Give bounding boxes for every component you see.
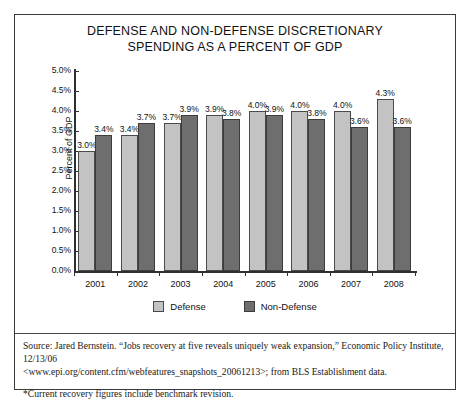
- legend-swatch-icon: [244, 301, 255, 312]
- bar-defense-2004: 3.9%: [206, 115, 223, 271]
- bar-defense-2002: 3.4%: [121, 135, 138, 271]
- bar-value-label: 3.0%: [77, 140, 96, 150]
- y-axis-tick-label: 1.5%: [52, 205, 71, 215]
- bar-defense-2006: 4.0%: [291, 111, 308, 271]
- x-axis-label-2004: 2004: [202, 279, 245, 289]
- bar-value-label: 3.9%: [179, 104, 198, 114]
- bar-value-label: 3.4%: [94, 124, 113, 134]
- bar-group: 4.0%3.8%: [291, 71, 325, 271]
- x-axis-label-2002: 2002: [117, 279, 160, 289]
- y-axis-tick-label: 2.5%: [52, 165, 71, 175]
- bar-non-defense-2004: 3.8%: [223, 119, 240, 271]
- bar-value-label: 4.3%: [376, 88, 395, 98]
- x-axis-label-2001: 2001: [74, 279, 117, 289]
- chart-panel: DEFENSE AND NON-DEFENSE DISCRETIONARY SP…: [15, 15, 455, 333]
- x-axis-label-2007: 2007: [330, 279, 373, 289]
- bar-group: 4.0%3.9%: [249, 71, 283, 271]
- y-axis-tick-label: 3.0%: [52, 145, 71, 155]
- bar-non-defense-2006: 3.8%: [308, 119, 325, 271]
- bar-non-defense-2005: 3.9%: [266, 115, 283, 271]
- bar-defense-2005: 4.0%: [249, 111, 266, 271]
- chart-document-page: DEFENSE AND NON-DEFENSE DISCRETIONARY SP…: [0, 0, 471, 409]
- legend-label: Non-Defense: [261, 301, 317, 312]
- x-axis-tick-mark: [74, 271, 75, 276]
- bar-non-defense-2001: 3.4%: [95, 135, 112, 271]
- legend-item-defense[interactable]: Defense: [153, 301, 205, 312]
- source-notes: Source: Jared Bernstein. “Jobs recovery …: [23, 339, 447, 409]
- source-line-2: <www.epi.org/content.cfm/webfeatures_sna…: [23, 365, 447, 378]
- bar-group: 3.9%3.8%: [206, 71, 240, 271]
- bar-group: 3.4%3.7%: [121, 71, 155, 271]
- bar-value-label: 4.0%: [333, 100, 352, 110]
- y-axis-tick-label: 0.5%: [52, 245, 71, 255]
- chart-legend: DefenseNon-Defense: [15, 301, 455, 312]
- bar-group: 3.7%3.9%: [164, 71, 198, 271]
- bar-value-label: 3.4%: [120, 124, 139, 134]
- x-axis-line: [74, 271, 417, 273]
- y-axis-tick-label: 1.0%: [52, 225, 71, 235]
- bar-group: 3.0%3.4%: [78, 71, 112, 271]
- legend-item-non-defense[interactable]: Non-Defense: [244, 301, 317, 312]
- x-axis-tick-mark: [330, 271, 331, 276]
- x-axis-tick-mark: [415, 271, 416, 276]
- y-axis-tick-label: 2.0%: [52, 185, 71, 195]
- bar-value-label: 3.8%: [222, 108, 241, 118]
- y-axis-tick-label: 4.5%: [52, 85, 71, 95]
- plot-area: 3.0%3.4%3.4%3.7%3.7%3.9%3.9%3.8%4.0%3.9%…: [74, 71, 415, 271]
- bar-group: 4.0%3.6%: [334, 71, 368, 271]
- bar-value-label: 3.8%: [307, 108, 326, 118]
- legend-swatch-icon: [153, 301, 164, 312]
- x-axis-tick-mark: [159, 271, 160, 276]
- document-frame: DEFENSE AND NON-DEFENSE DISCRETIONARY SP…: [14, 14, 456, 390]
- legend-label: Defense: [170, 301, 205, 312]
- bar-value-label: 3.6%: [350, 116, 369, 126]
- footnote-divider: [15, 333, 455, 334]
- x-axis-label-2005: 2005: [245, 279, 288, 289]
- x-axis-tick-mark: [245, 271, 246, 276]
- bar-value-label: 3.6%: [393, 116, 412, 126]
- chart-title-line-2: SPENDING AS A PERCENT OF GDP: [15, 39, 455, 55]
- x-axis-label-2003: 2003: [159, 279, 202, 289]
- x-axis-tick-mark: [287, 271, 288, 276]
- bar-value-label: 3.9%: [265, 104, 284, 114]
- bar-non-defense-2003: 3.9%: [181, 115, 198, 271]
- bar-defense-2001: 3.0%: [78, 151, 95, 271]
- bar-non-defense-2007: 3.6%: [351, 127, 368, 271]
- y-axis-tick-label: 4.0%: [52, 105, 71, 115]
- footnote-line: *Current recovery figures include benchm…: [23, 387, 447, 400]
- bar-defense-2007: 4.0%: [334, 111, 351, 271]
- x-axis-tick-mark: [117, 271, 118, 276]
- y-axis-tick-label: 0.0%: [52, 265, 71, 275]
- bar-non-defense-2002: 3.7%: [138, 123, 155, 271]
- y-axis-tick-label: 3.5%: [52, 125, 71, 135]
- x-axis-label-2008: 2008: [372, 279, 415, 289]
- bar-value-label: 3.7%: [137, 112, 156, 122]
- x-axis-tick-mark: [372, 271, 373, 276]
- y-axis-tick-label: 5.0%: [52, 65, 71, 75]
- chart-title: DEFENSE AND NON-DEFENSE DISCRETIONARY SP…: [15, 23, 455, 55]
- chart-title-line-1: DEFENSE AND NON-DEFENSE DISCRETIONARY: [15, 23, 455, 39]
- x-axis-label-2006: 2006: [287, 279, 330, 289]
- bar-defense-2003: 3.7%: [164, 123, 181, 271]
- bar-group: 4.3%3.6%: [377, 71, 411, 271]
- bar-non-defense-2008: 3.6%: [394, 127, 411, 271]
- source-line-1: Source: Jared Bernstein. “Jobs recovery …: [23, 339, 447, 365]
- x-axis-tick-mark: [202, 271, 203, 276]
- bar-defense-2008: 4.3%: [377, 99, 394, 271]
